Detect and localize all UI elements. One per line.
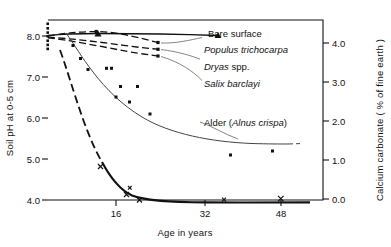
series-populus-trichocarpa [48, 30, 160, 44]
series-label-salix-barclayi: Salix barclayi [204, 78, 261, 89]
ytick-label: 8.0 [27, 31, 40, 42]
series-label-bare-surface: Bare surface [208, 28, 262, 39]
series-label-alder: Alder (Alnus crispa) [204, 117, 287, 128]
series-label-alder-binomial: Alnus crispa [231, 117, 284, 128]
x-axis-title: Age in years [157, 227, 212, 238]
ytick-right-label: 4.0 [332, 38, 345, 49]
ytick-right-label: 3.0 [332, 77, 345, 88]
ytick-right-label: 0.0 [332, 194, 345, 205]
soil-ph-calcium-carbonate-chart: 8.0 7.0 6.0 5.0 4.0 Soil pH at 0-5 cm 4.… [0, 0, 391, 247]
ytick-right-label: 1.0 [332, 155, 345, 166]
right-axis-ticklabels: 4.0 3.0 2.0 1.0 0.0 [332, 38, 345, 205]
series-label-dryas-spp: Dryas spp. [204, 61, 249, 72]
ytick-label: 7.0 [27, 72, 40, 83]
series-label-dryas-genus: Dryas [204, 61, 229, 72]
series-calcium-carbonate-markers [98, 164, 284, 203]
xtick-label: 48 [276, 208, 287, 219]
ytick-label: 4.0 [27, 195, 40, 206]
x-axis-ticklabels: 16 32 48 [111, 208, 287, 219]
xtick-label: 32 [200, 208, 211, 219]
ytick-right-label: 2.0 [332, 116, 345, 127]
figure-container: 8.0 7.0 6.0 5.0 4.0 Soil pH at 0-5 cm 4.… [0, 0, 391, 247]
y-axis-right-title: Calcium carbonate ( % of fine earth ) [374, 39, 385, 201]
ytick-label: 5.0 [27, 154, 40, 165]
series-label-populus-trichocarpa: Populus trichocarpa [204, 44, 288, 55]
right-axis-ticks [323, 43, 329, 199]
xtick-label: 16 [111, 208, 122, 219]
series-label-alder-close-paren: ) [284, 117, 287, 128]
ytick-label: 6.0 [27, 113, 40, 124]
y-axis-title: Soil pH at 0-5 cm [4, 80, 15, 156]
series-label-alder-common: Alder ( [204, 117, 233, 128]
left-axis-ticks [42, 36, 48, 200]
left-axis-ticklabels: 8.0 7.0 6.0 5.0 4.0 [27, 31, 40, 206]
series-label-dryas-suffix: spp. [229, 61, 250, 72]
